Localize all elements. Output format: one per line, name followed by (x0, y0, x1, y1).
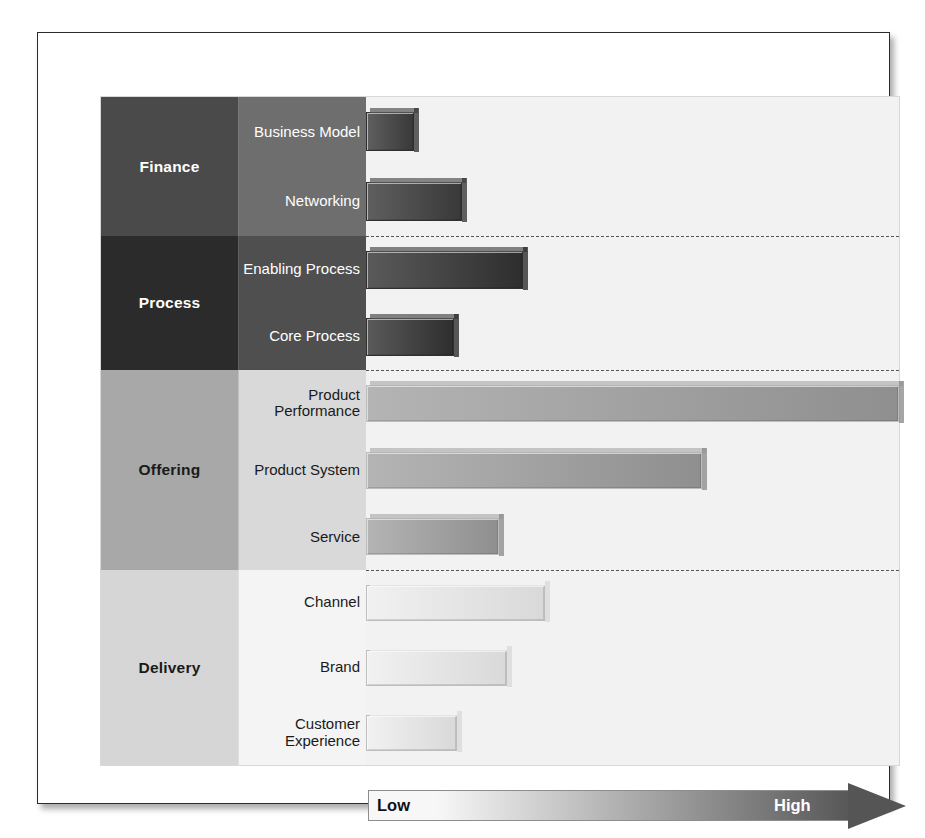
sublabel-networking: Networking (239, 167, 366, 237)
legend-arrowhead (848, 783, 906, 829)
bar-row (366, 570, 901, 635)
bar-core-process (366, 318, 454, 356)
plot-area-finance (366, 97, 901, 236)
bar-product-system (366, 452, 702, 489)
bar-right-face (899, 381, 904, 423)
category-label-offering: Offering (101, 370, 239, 570)
bar-networking (366, 182, 462, 221)
sublabel-core-process: Core Process (239, 303, 366, 370)
sublabel-column-finance: Business ModelNetworking (239, 97, 366, 236)
sublabel-product-system: Product System (239, 437, 366, 504)
sublabel-service: Service (239, 503, 366, 570)
bar-row (366, 167, 901, 237)
group-process: ProcessEnabling ProcessCore Process (101, 236, 901, 370)
bar-brand (366, 650, 507, 686)
bar-row (366, 635, 901, 700)
sublabel-customer-experience: Customer Experience (239, 700, 366, 765)
sublabel-column-offering: Product PerformanceProduct SystemService (239, 370, 366, 570)
category-label-process: Process (101, 236, 239, 370)
sublabel-column-process: Enabling ProcessCore Process (239, 236, 366, 370)
bar-product-performance (366, 385, 899, 422)
bar-top-face (370, 178, 466, 183)
bar-row (366, 303, 901, 370)
bar-top-face (370, 108, 418, 113)
category-label-finance: Finance (101, 97, 239, 236)
bar-right-face (454, 314, 459, 357)
bar-channel (366, 585, 545, 621)
bar-row (366, 370, 901, 437)
category-label-delivery: Delivery (101, 570, 239, 765)
sublabel-brand: Brand (239, 635, 366, 700)
bar-top-face (370, 247, 527, 252)
bar-row (366, 503, 901, 570)
bar-customer-experience (366, 715, 457, 751)
group-delivery: DeliveryChannelBrandCustomer Experience (101, 570, 901, 765)
bar-row (366, 437, 901, 504)
bar-enabling-process (366, 251, 523, 289)
bar-service (366, 518, 499, 555)
plot-area-offering (366, 370, 901, 570)
bar-right-face (414, 108, 419, 152)
bar-row (366, 97, 901, 167)
sublabel-business-model: Business Model (239, 97, 366, 167)
bar-top-face (370, 711, 461, 716)
bar-right-face (545, 581, 550, 622)
chart-page: FinanceBusiness ModelNetworkingProcessEn… (0, 0, 925, 838)
bar-row (366, 700, 901, 765)
bar-top-face (370, 514, 503, 519)
group-finance: FinanceBusiness ModelNetworking (101, 97, 901, 236)
plot-area-delivery (366, 570, 901, 765)
sublabel-channel: Channel (239, 570, 366, 635)
diagram-frame: FinanceBusiness ModelNetworkingProcessEn… (37, 32, 890, 804)
sublabel-column-delivery: ChannelBrandCustomer Experience (239, 570, 366, 765)
bar-business-model (366, 112, 414, 151)
bar-right-face (507, 646, 512, 687)
sublabel-enabling-process: Enabling Process (239, 236, 366, 303)
bar-top-face (370, 646, 511, 651)
bar-top-face (370, 581, 549, 586)
bar-right-face (499, 514, 504, 556)
innovation-matrix-grid: FinanceBusiness ModelNetworkingProcessEn… (100, 96, 900, 766)
legend-low-label: Low (377, 796, 410, 815)
scale-legend-arrow: Low High (368, 783, 906, 829)
bar-top-face (370, 314, 458, 319)
bar-right-face (523, 247, 528, 290)
plot-area-process (366, 236, 901, 370)
bar-row (366, 236, 901, 303)
sublabel-product-performance: Product Performance (239, 370, 366, 437)
bar-right-face (457, 711, 462, 752)
bar-top-face (370, 448, 706, 453)
bar-top-face (370, 381, 903, 386)
group-offering: OfferingProduct PerformanceProduct Syste… (101, 370, 901, 570)
bar-right-face (702, 448, 707, 490)
legend-high-label: High (774, 796, 811, 815)
bar-right-face (462, 178, 467, 222)
